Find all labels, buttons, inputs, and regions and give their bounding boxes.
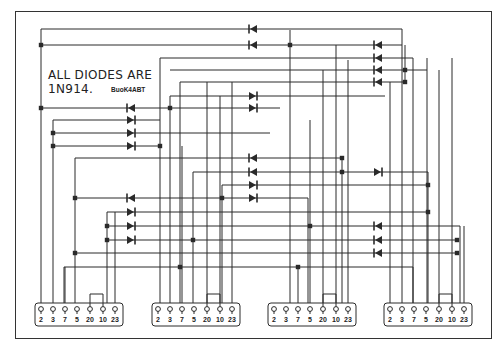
pin-label: 2 xyxy=(156,316,160,323)
pin-label: 5 xyxy=(424,316,428,323)
diode-icon xyxy=(249,41,257,50)
diode-icon xyxy=(249,104,257,113)
junction-dot xyxy=(73,196,77,200)
pin-label: 2 xyxy=(272,316,276,323)
junction-dot xyxy=(403,80,407,84)
pin-label: 10 xyxy=(448,316,456,323)
pin-label: 3 xyxy=(51,316,55,323)
pin-label: 20 xyxy=(203,316,211,323)
pin-label: 7 xyxy=(412,316,416,323)
pin-label: 7 xyxy=(180,316,184,323)
diode-icon xyxy=(374,236,382,245)
diode-icon xyxy=(249,92,257,101)
junction-dot xyxy=(220,196,224,200)
junction-dot xyxy=(168,106,172,110)
junction-dot xyxy=(426,210,430,214)
junction-dot xyxy=(426,183,430,187)
diode-icon xyxy=(249,168,257,177)
diode-icon xyxy=(374,66,382,75)
wires xyxy=(41,29,464,303)
diode-icon xyxy=(374,168,382,177)
diode-icon xyxy=(374,249,382,258)
pin-label: 3 xyxy=(284,316,288,323)
db25-connector: 2375201023 xyxy=(152,294,240,326)
diode-icon xyxy=(249,154,257,163)
diode-icon xyxy=(127,104,135,113)
pin-label: 23 xyxy=(111,316,119,323)
pin-label: 5 xyxy=(308,316,312,323)
junction-dot xyxy=(73,251,77,255)
diode-icon xyxy=(127,194,135,203)
diode-icon xyxy=(127,222,135,231)
pin-label: 23 xyxy=(228,316,236,323)
schematic: 2375201023237520102323752010232375201023 xyxy=(0,0,503,357)
junction-dot xyxy=(105,224,109,228)
pin-label: 2 xyxy=(388,316,392,323)
connectors: 2375201023237520102323752010232375201023 xyxy=(35,294,472,326)
pin-label: 3 xyxy=(400,316,404,323)
junction-dot xyxy=(403,68,407,72)
pin-label: 20 xyxy=(319,316,327,323)
junction-dot xyxy=(51,144,55,148)
pin-label: 3 xyxy=(168,316,172,323)
junction-dot xyxy=(39,43,43,47)
diode-icon xyxy=(127,116,135,125)
pin-label: 23 xyxy=(460,316,468,323)
db25-connector: 2375201023 xyxy=(35,294,123,326)
junction-dot xyxy=(340,156,344,160)
diode-icon xyxy=(249,25,257,34)
pin-label: 7 xyxy=(296,316,300,323)
junction-dot xyxy=(455,251,459,255)
junction-dot xyxy=(191,238,195,242)
pin-label: 7 xyxy=(63,316,67,323)
diode-icon xyxy=(127,208,135,217)
junction-dot xyxy=(455,238,459,242)
diode-icon xyxy=(249,194,257,203)
diode-icon xyxy=(374,78,382,87)
junction-dot xyxy=(296,265,300,269)
diode-icon xyxy=(127,236,135,245)
pin-label: 23 xyxy=(344,316,352,323)
pin-label: 5 xyxy=(192,316,196,323)
diode-icon xyxy=(127,129,135,138)
diodes xyxy=(127,25,382,258)
pin-label: 10 xyxy=(332,316,340,323)
junction-dot xyxy=(288,43,292,47)
diode-icon xyxy=(374,41,382,50)
pin-label: 20 xyxy=(435,316,443,323)
junction-dot xyxy=(105,238,109,242)
pin-label: 20 xyxy=(86,316,94,323)
junction-dot xyxy=(178,265,182,269)
junction-dot xyxy=(51,131,55,135)
diode-icon xyxy=(374,54,382,63)
junction-dot xyxy=(340,170,344,174)
junction-dot xyxy=(308,224,312,228)
pin-label: 5 xyxy=(75,316,79,323)
pin-label: 10 xyxy=(216,316,224,323)
pin-label: 10 xyxy=(99,316,107,323)
diode-icon xyxy=(249,181,257,190)
junction-dot xyxy=(39,106,43,110)
diode-icon xyxy=(127,142,135,151)
diode-icon xyxy=(374,222,382,231)
junction-dot xyxy=(158,144,162,148)
db25-connector: 2375201023 xyxy=(268,294,356,326)
pin-label: 2 xyxy=(39,316,43,323)
